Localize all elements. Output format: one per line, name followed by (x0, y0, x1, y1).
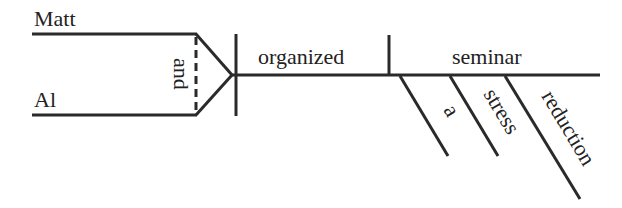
subject2-word: Al (34, 87, 56, 112)
subject1-word: Matt (34, 6, 76, 31)
verb-word: organized (258, 44, 344, 69)
object-word: seminar (452, 44, 522, 69)
modifier-a: a (439, 100, 466, 121)
fork-upper (196, 34, 232, 75)
modifier-reduction: reduction (537, 86, 601, 170)
conjunction-word: and (169, 58, 194, 90)
fork-lower (196, 75, 232, 115)
sentence-diagram: Matt Al and organized seminar a stress r… (0, 0, 622, 208)
modifier-stress: stress (479, 84, 526, 139)
